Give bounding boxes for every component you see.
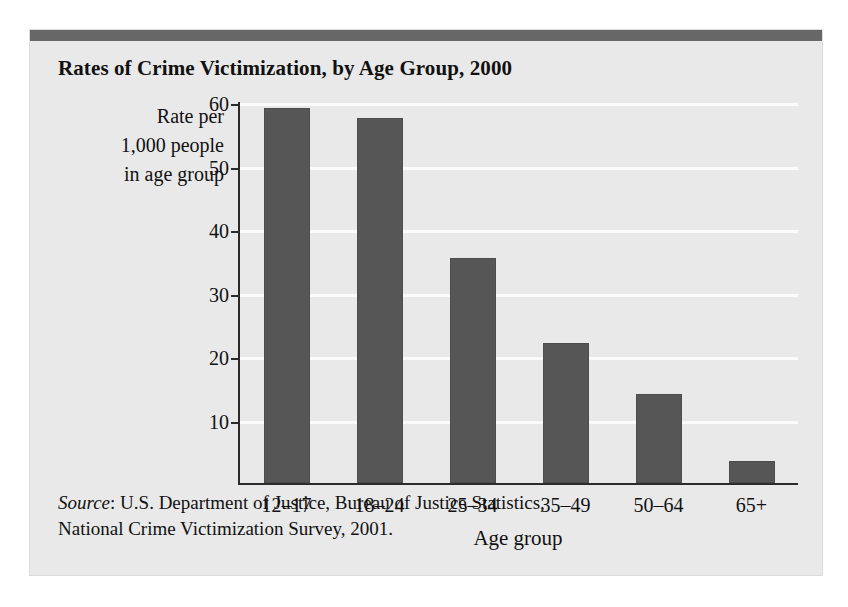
y-tick-label: 30 [209,283,229,306]
y-axis-caption-line-2: 1,000 people [64,131,224,160]
y-tick-mark [231,168,238,170]
y-tick-label: 50 [209,156,229,179]
bars-layer [240,102,798,483]
y-tick-mark [231,104,238,106]
y-axis-caption-line-1: Rate per [64,102,224,131]
y-axis-caption: Rate per 1,000 people in age group [64,102,224,189]
bar [543,343,589,483]
bar [264,108,310,483]
bar [357,118,403,483]
y-tick-label: 20 [209,347,229,370]
y-tick-mark [231,295,238,297]
bar [450,258,496,483]
source-note-line-1: Source: U.S. Department of Justice, Bure… [58,492,545,513]
card-top-accent-bar [30,30,822,41]
y-tick-mark [231,422,238,424]
chart-title: Rates of Crime Victimization, by Age Gro… [58,56,512,81]
plot-inner: 102030405060 12–1718–2425–3435–4950–6465… [238,102,798,485]
y-tick-label: 10 [209,410,229,433]
source-note: Source: U.S. Department of Justice, Bure… [58,490,788,542]
x-axis-line [238,483,798,485]
y-tick-mark [231,358,238,360]
source-label: Source [58,492,110,513]
bar [729,461,775,483]
y-tick-label: 40 [209,220,229,243]
y-axis-caption-line-3: in age group [64,160,224,189]
y-tick-mark [231,231,238,233]
figure-page: Rates of Crime Victimization, by Age Gro… [0,0,848,607]
plot-area: 102030405060 12–1718–2425–3435–4950–6465… [238,102,798,485]
y-tick-label: 60 [209,93,229,116]
source-note-line-2: National Crime Victimization Survey, 200… [58,518,393,539]
figure-card: Rates of Crime Victimization, by Age Gro… [30,30,822,575]
source-note-text-1: : U.S. Department of Justice, Bureau of … [110,492,545,513]
bar [636,394,682,483]
